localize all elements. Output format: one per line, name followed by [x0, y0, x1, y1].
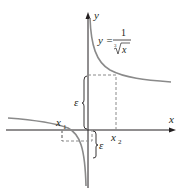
- x-axis-arrow-icon: [169, 128, 176, 133]
- y-axis-label: y: [93, 9, 99, 21]
- graph-canvas: y x y = 1 3 x ε ε x 1 x 2: [0, 0, 180, 192]
- curve-negative-branch: [8, 118, 86, 186]
- x1-subscript: 1: [63, 123, 67, 131]
- y-axis-arrow-icon: [86, 12, 91, 19]
- x2-subscript: 2: [118, 138, 122, 146]
- x2-label: x: [110, 131, 116, 143]
- epsilon-box-upper: [88, 75, 116, 130]
- x1-label: x: [55, 116, 61, 128]
- epsilon-brace-lower: [93, 131, 98, 158]
- curve-positive-branch: [90, 18, 171, 82]
- epsilon-brace-upper: [82, 76, 87, 129]
- equation-lhs: y =: [97, 34, 113, 46]
- equation-root-index: 3: [114, 43, 117, 48]
- equation-numerator: 1: [121, 27, 126, 38]
- epsilon-upper-label: ε: [74, 96, 79, 108]
- equation-radicand: x: [121, 44, 127, 55]
- epsilon-lower-label: ε: [99, 139, 104, 151]
- x-axis-label: x: [168, 113, 174, 125]
